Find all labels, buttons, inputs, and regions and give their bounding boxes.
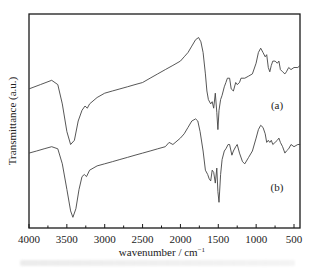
x-axis-tick-labels: 4000350030002500200015001000500 <box>18 233 303 245</box>
x-axis-title-superscript: −1 <box>198 246 206 254</box>
x-tick-label: 500 <box>286 233 303 245</box>
x-tick-label: 3000 <box>94 233 117 245</box>
x-axis-title: wavenumber / cm−1 <box>119 246 206 258</box>
x-tick-label: 3500 <box>56 233 79 245</box>
series-label-a: (a) <box>271 99 284 112</box>
x-tick-label: 1500 <box>207 233 230 245</box>
y-axis-title: Transmittance (a.u.) <box>6 76 19 165</box>
series-line-b <box>29 119 300 217</box>
series-labels: (a)(b) <box>271 99 284 194</box>
figure-caption-blurred <box>20 260 295 266</box>
x-tick-label: 2500 <box>132 233 155 245</box>
x-tick-label: 1000 <box>245 233 268 245</box>
series-layer <box>29 38 300 218</box>
plot-border <box>29 14 300 228</box>
x-tick-label: 4000 <box>18 233 41 245</box>
x-axis-title-text: wavenumber / cm <box>119 246 198 258</box>
plot-frame <box>29 14 300 228</box>
series-label-b: (b) <box>271 181 284 194</box>
x-tick-label: 2000 <box>169 233 192 245</box>
ftir-chart: 4000350030002500200015001000500 (a)(b) w… <box>0 0 310 273</box>
